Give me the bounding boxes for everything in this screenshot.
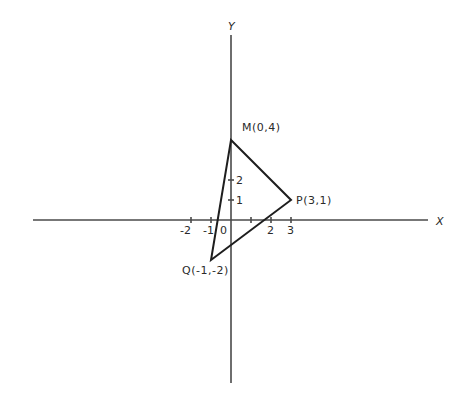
y-axis-label: Y: [228, 20, 236, 33]
vertex-label-p: P(3,1): [296, 194, 332, 207]
x-tick-label-neg1: -1: [203, 224, 214, 237]
x-axis-label: X: [435, 215, 444, 228]
coordinate-diagram: X Y -2 -1 0 2 3 1 2 M(0,4) P(3,1) Q(-1,-…: [0, 0, 469, 399]
y-tick-label-2: 2: [236, 174, 243, 187]
x-tick-label-3: 3: [287, 224, 294, 237]
vertex-label-q: Q(-1,-2): [182, 264, 229, 277]
x-tick-label-neg2: -2: [180, 224, 191, 237]
vertex-label-m: M(0,4): [242, 121, 281, 134]
triangle-mpq: [211, 140, 291, 260]
x-tick-label-2: 2: [267, 224, 274, 237]
y-tick-label-1: 1: [236, 194, 243, 207]
x-tick-label-0: 0: [220, 224, 227, 237]
axes: [33, 35, 428, 383]
